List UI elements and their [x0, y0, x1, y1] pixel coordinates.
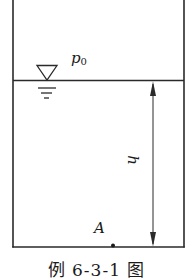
tank-diagram: p0 h A [0, 0, 193, 280]
arrowhead-down-icon [150, 232, 156, 247]
tank-walls [12, 0, 185, 248]
water-level-triangle [37, 66, 57, 81]
depth-label: h [124, 155, 142, 165]
surface-pressure-subscript: 0 [81, 56, 87, 67]
point-a-marker [111, 244, 115, 248]
figure-caption: 例 6-3-1 图 [0, 260, 193, 280]
water-level-icon [37, 66, 57, 99]
surface-pressure-label: p0 [71, 49, 87, 67]
arrowhead-up-icon [150, 82, 156, 97]
depth-dimension-arrow [150, 82, 156, 247]
point-a-label: A [92, 219, 105, 237]
